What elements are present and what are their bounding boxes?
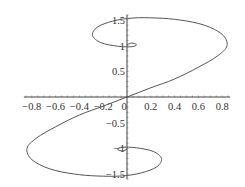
y-tick-label: −0.5 xyxy=(106,118,125,129)
y-tick-label: −1.5 xyxy=(106,169,125,180)
x-tick-label: −0.4 xyxy=(70,101,90,112)
x-tick-label: 0.6 xyxy=(192,101,205,112)
x-tick-label: 0.4 xyxy=(168,101,182,112)
x-tick-label: 0.2 xyxy=(144,101,157,112)
chart-plot: −0.8−0.6−0.4−0.200.20.40.60.8−1.5−1−0.50… xyxy=(0,0,245,187)
y-tick-label: 0.5 xyxy=(112,66,125,77)
x-tick-label: 0 xyxy=(121,101,126,112)
x-tick-label: 0.8 xyxy=(216,101,229,112)
x-tick-label: −0.8 xyxy=(22,101,41,112)
y-tick-label: −1 xyxy=(114,143,125,154)
x-tick-label: −0.6 xyxy=(46,101,65,112)
